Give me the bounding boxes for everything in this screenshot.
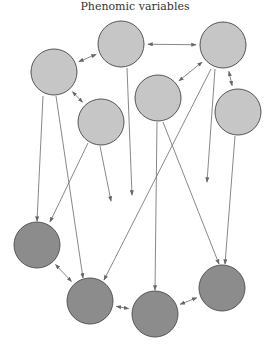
bidirectional-arrow-l2-l3	[116, 306, 128, 308]
directed-arrow-0	[37, 96, 43, 221]
directed-arrow-4	[127, 68, 132, 195]
directed-arrow-8	[163, 122, 219, 264]
latent-node-l3	[132, 291, 178, 337]
directed-arrow-9	[225, 136, 235, 264]
latent-node-l1	[14, 222, 60, 268]
phenomic-node-p2	[98, 21, 144, 67]
latent-node-l2	[67, 278, 113, 324]
directed-arrow-7	[155, 122, 157, 290]
bidirectional-arrow-p1-p6	[72, 92, 82, 103]
directed-arrow-3	[100, 146, 111, 201]
directed-arrow-6	[207, 69, 215, 182]
nodes-layer	[14, 21, 261, 337]
path-diagram	[0, 0, 270, 348]
bidirectional-arrow-p3-p5	[229, 71, 232, 85]
bidirectional-arrow-p3-p4	[179, 62, 202, 81]
phenomic-node-p1	[31, 49, 77, 95]
bidirectional-arrow-l1-l2	[56, 265, 72, 282]
latent-node-l4	[199, 265, 245, 311]
phenomic-node-p4	[135, 75, 181, 121]
directed-arrow-2	[50, 143, 88, 222]
bidirectional-arrow-p1-p2	[79, 54, 96, 61]
phenomic-node-p5	[215, 89, 261, 135]
bidirectional-arrow-l3-l4	[180, 298, 197, 304]
phenomic-node-p6	[78, 99, 124, 145]
phenomic-node-p3	[200, 22, 246, 68]
